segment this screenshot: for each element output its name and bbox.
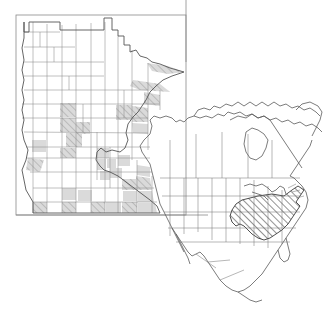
figure-background <box>0 0 327 319</box>
map-canvas <box>0 0 327 319</box>
distribution-map-figure: county with records county without recor… <box>0 0 327 319</box>
